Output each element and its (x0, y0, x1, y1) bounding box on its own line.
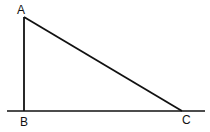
side-ac-hypotenuse (24, 17, 182, 111)
vertex-label-c: C (182, 113, 191, 127)
vertex-label-a: A (17, 3, 25, 17)
triangle-diagram: A B C (0, 0, 210, 132)
vertex-label-b: B (20, 115, 28, 129)
